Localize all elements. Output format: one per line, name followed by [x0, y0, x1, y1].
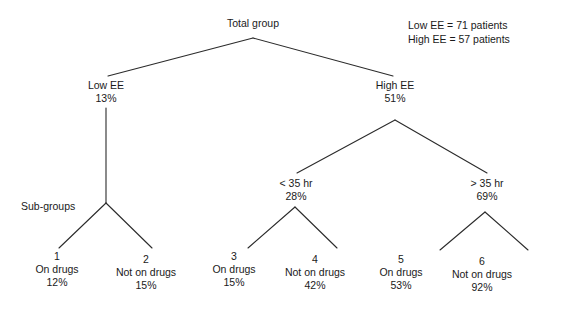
edge-root-to-high-ee	[253, 38, 393, 76]
edge-gt35-to-leaf-5	[440, 212, 485, 250]
leaf-index-4: 4	[285, 253, 345, 266]
leaf-node-6: 6 Not on drugs 92%	[452, 255, 512, 294]
leaf-node-4: 4 Not on drugs 42%	[285, 253, 345, 292]
edge-high-ee-to-lt35	[297, 120, 395, 173]
leaf-index-2: 2	[116, 253, 176, 266]
leaf-node-5: 5 On drugs 53%	[379, 253, 422, 292]
edge-root-to-low-ee	[108, 38, 253, 76]
node-less-than-35hr: < 35 hr 28%	[280, 177, 313, 203]
node-less-than-35hr-label: < 35 hr	[280, 177, 313, 190]
edge-lt35-to-leaf-3	[248, 207, 295, 248]
node-high-ee-label: High EE	[376, 79, 415, 92]
node-low-ee-value: 13%	[88, 92, 124, 105]
node-total-group-label: Total group	[227, 17, 279, 30]
node-less-than-35hr-value: 28%	[280, 190, 313, 203]
node-low-ee-label: Low EE	[88, 79, 124, 92]
node-greater-than-35hr: > 35 hr 69%	[471, 177, 504, 203]
leaf-value-4: 42%	[285, 279, 345, 292]
node-total-group: Total group	[227, 17, 279, 30]
decision-tree-diagram: Low EE = 71 patients High EE = 57 patien…	[0, 0, 574, 310]
node-low-ee: Low EE 13%	[88, 79, 124, 105]
subgroups-label: Sub-groups	[21, 200, 75, 212]
leaf-value-6: 92%	[452, 281, 512, 294]
leaf-label-2: Not on drugs	[116, 266, 176, 279]
edge-lt35-to-leaf-4	[295, 207, 337, 248]
leaf-node-1: 1 On drugs 12%	[35, 250, 78, 289]
leaf-value-2: 15%	[116, 279, 176, 292]
node-greater-than-35hr-value: 69%	[471, 190, 504, 203]
leaf-node-3: 3 On drugs 15%	[212, 250, 255, 289]
leaf-node-2: 2 Not on drugs 15%	[116, 253, 176, 292]
leaf-index-6: 6	[452, 255, 512, 268]
leaf-value-5: 53%	[379, 279, 422, 292]
node-greater-than-35hr-label: > 35 hr	[471, 177, 504, 190]
node-high-ee-value: 51%	[376, 92, 415, 105]
leaf-label-1: On drugs	[35, 263, 78, 276]
leaf-index-3: 3	[212, 250, 255, 263]
leaf-index-1: 1	[35, 250, 78, 263]
leaf-value-3: 15%	[212, 276, 255, 289]
leaf-value-1: 12%	[35, 276, 78, 289]
edge-gt35-to-leaf-6	[485, 212, 528, 250]
edge-subgroup-to-leaf-2	[106, 203, 152, 248]
leaf-label-3: On drugs	[212, 263, 255, 276]
leaf-label-6: Not on drugs	[452, 268, 512, 281]
leaf-index-5: 5	[379, 253, 422, 266]
node-high-ee: High EE 51%	[376, 79, 415, 105]
legend-low-ee: Low EE = 71 patients	[408, 18, 510, 32]
legend-high-ee: High EE = 57 patients	[408, 32, 510, 46]
edge-high-ee-to-gt35	[395, 120, 487, 173]
legend: Low EE = 71 patients High EE = 57 patien…	[408, 18, 510, 46]
leaf-label-5: On drugs	[379, 266, 422, 279]
leaf-label-4: Not on drugs	[285, 266, 345, 279]
